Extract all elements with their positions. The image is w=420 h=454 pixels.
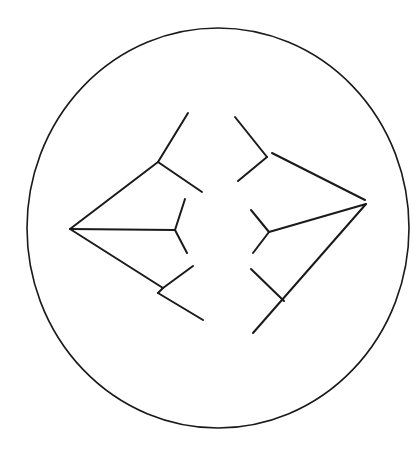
right-branch-segment-1 — [238, 157, 267, 181]
left-branch-segment-4 — [175, 199, 185, 230]
left-branch-segment-5 — [175, 230, 187, 253]
right-branch-segment-0 — [235, 117, 267, 157]
right-branch-tree — [235, 117, 366, 333]
left-branch-segment-7 — [163, 266, 193, 288]
outer-circle — [27, 28, 409, 428]
right-branch-segment-3 — [269, 204, 366, 232]
left-branch-segment-8 — [158, 288, 163, 293]
left-branch-segment-1 — [158, 113, 188, 162]
left-branch-segment-6 — [70, 229, 163, 288]
left-branch-segment-3 — [70, 229, 175, 230]
left-branch-segment-0 — [70, 162, 158, 229]
diagram-svg — [0, 0, 420, 454]
right-branch-segment-2 — [272, 153, 365, 200]
right-branch-segment-4 — [251, 210, 269, 232]
right-branch-segment-6 — [253, 204, 366, 333]
left-branch-tree — [70, 113, 203, 320]
left-branch-segment-9 — [158, 293, 203, 320]
diagram-canvas — [0, 0, 420, 454]
right-branch-segment-7 — [251, 269, 284, 301]
right-branch-segment-5 — [253, 232, 269, 253]
left-branch-segment-2 — [158, 162, 202, 192]
